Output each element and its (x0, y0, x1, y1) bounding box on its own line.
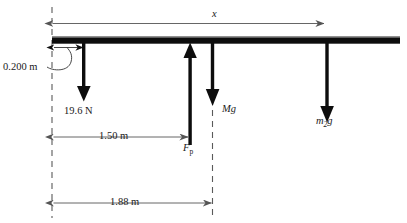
label-force-m2g: m2g (316, 116, 333, 129)
label-weight-19-6-n: 19.6 N (64, 106, 93, 117)
diagram-canvas (0, 0, 407, 223)
force-arrow-19-6-newton (77, 43, 91, 102)
force-arrow-m2g (320, 43, 334, 123)
label-force-fp-subscript: p (189, 147, 193, 156)
label-offset-0200m: 0.200 m (3, 62, 37, 73)
label-force-fp: Fp (183, 143, 193, 156)
force-arrow-fp (184, 43, 197, 146)
label-span-x: x (212, 9, 217, 20)
beam (52, 36, 400, 43)
label-force-m2g-mass: m (316, 115, 324, 126)
label-distance-1-50-m: 1.50 m (99, 131, 128, 142)
label-force-m2g-gravity: g (327, 115, 332, 126)
force-arrow-mg (206, 43, 220, 106)
label-force-mg: Mg (222, 104, 236, 115)
physics-diagram: x 0.200 m 19.6 N 1.50 m Fp Mg m2g 1.88 m (0, 0, 407, 223)
label-distance-1-88-m: 1.88 m (110, 197, 139, 208)
